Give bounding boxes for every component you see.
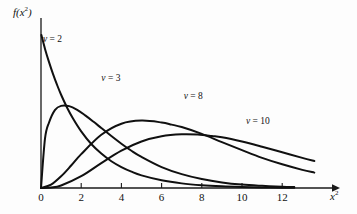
x-tick-label: 6 [150,192,174,203]
x-tick-label: 12 [270,192,294,203]
curve-label-nu-8: ν = 8 [184,92,203,102]
density-curves [41,35,314,188]
nu-equals: = [250,116,260,126]
x-axis-label-text: x2 [330,190,338,202]
curve-label-nu-3: ν = 3 [101,74,120,84]
chi-square-density-chart: f(x2) x2 024681012 ν = 2ν = 3ν = 8ν = 10 [0,0,357,214]
nu-equals: = [106,73,116,83]
nu-equals: = [188,91,198,101]
x-tick-label: 10 [230,192,254,203]
x-tick-label: 8 [190,192,214,203]
nu-equals: = [47,34,57,44]
x-tick-label: 4 [109,192,133,203]
x-tick-label: 0 [29,192,53,203]
nu-value: 3 [116,73,121,83]
density-curve-nu-8 [41,121,314,188]
curve-label-nu-10: ν = 10 [246,117,270,127]
nu-value: 2 [57,34,62,44]
nu-value: 10 [260,116,270,126]
x-tick-label: 2 [69,192,93,203]
x-axis-label: x2 [330,190,338,202]
curve-label-nu-2: ν = 2 [43,35,62,45]
y-axis-label-text: f(x2) [13,6,32,18]
nu-value: 8 [198,91,203,101]
chart-canvas [0,0,357,214]
y-axis-label: f(x2) [13,6,32,18]
